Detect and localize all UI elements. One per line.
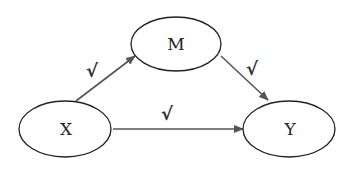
node-y: Y: [243, 101, 335, 157]
check-icon-x-m: √: [86, 60, 99, 81]
mediation-diagram: M X Y √ √ √: [0, 0, 353, 169]
node-m: M: [131, 17, 221, 71]
node-m-label: M: [167, 34, 184, 54]
node-y-label: Y: [283, 119, 296, 139]
edge-x-to-m: [76, 56, 135, 101]
edge-m-to-y: [221, 56, 268, 100]
node-x: X: [19, 101, 111, 157]
node-x-label: X: [60, 119, 73, 139]
check-icon-x-y: √: [161, 103, 174, 124]
check-icon-m-y: √: [246, 58, 259, 79]
